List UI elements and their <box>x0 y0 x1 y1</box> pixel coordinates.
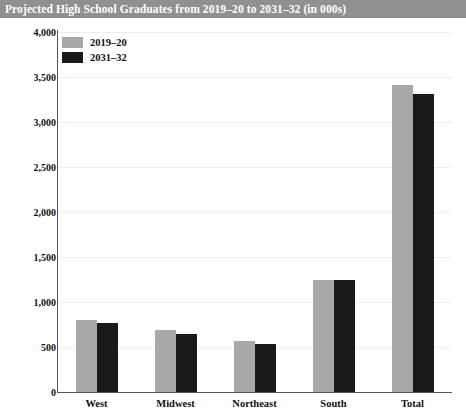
legend-label: 2019–20 <box>90 37 127 48</box>
x-axis-label-midwest: Midwest <box>156 398 195 409</box>
chart-title-bar: Projected High School Graduates from 201… <box>0 0 466 18</box>
bar-west-2019-20 <box>76 320 97 392</box>
bar-west-2031-32 <box>97 323 118 392</box>
legend-swatch-icon <box>62 37 83 48</box>
x-axis-label-west: West <box>85 398 107 409</box>
plot-area: 05001,0001,5002,0002,5003,0003,5004,000 … <box>0 18 466 415</box>
legend-item: 2019–20 <box>62 36 127 48</box>
legend-label: 2031–32 <box>90 52 127 63</box>
page-title: Projected High School Graduates from 201… <box>0 3 346 15</box>
x-axis-label-northeast: Northeast <box>232 398 276 409</box>
bar-midwest-2019-20 <box>155 330 176 392</box>
bar-total-2031-32 <box>413 94 434 392</box>
legend-item: 2031–32 <box>62 51 127 63</box>
bar-total-2019-20 <box>392 85 413 392</box>
x-axis-label-total: Total <box>401 398 424 409</box>
bar-northeast-2031-32 <box>255 344 276 392</box>
bar-midwest-2031-32 <box>176 334 197 392</box>
legend-swatch-icon <box>62 52 83 63</box>
bar-northeast-2019-20 <box>234 341 255 392</box>
bars-layer <box>0 18 466 415</box>
chart-card: Projected High School Graduates from 201… <box>0 0 466 415</box>
x-axis-label-south: South <box>320 398 346 409</box>
chart-legend: 2019–202031–32 <box>62 36 127 63</box>
bar-south-2019-20 <box>313 280 334 392</box>
bar-south-2031-32 <box>334 280 355 393</box>
